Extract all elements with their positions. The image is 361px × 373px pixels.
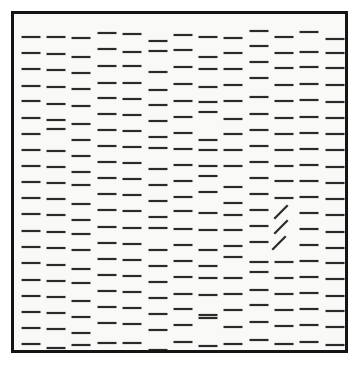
stimulus-canvas [14, 14, 345, 350]
stimulus-page [0, 0, 361, 373]
target-line-group [272, 205, 287, 249]
stimulus-frame [11, 11, 348, 353]
target-line-1 [274, 205, 287, 218]
distractor-line-group [22, 31, 345, 350]
target-line-3 [272, 236, 285, 249]
target-line-2 [274, 220, 287, 233]
